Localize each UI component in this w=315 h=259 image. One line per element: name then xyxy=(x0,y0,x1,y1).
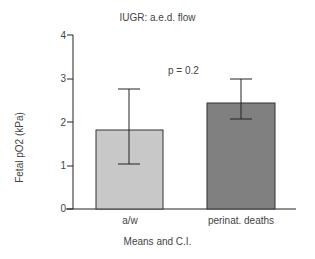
y-ticks xyxy=(67,35,73,209)
chart-plot xyxy=(0,0,315,259)
